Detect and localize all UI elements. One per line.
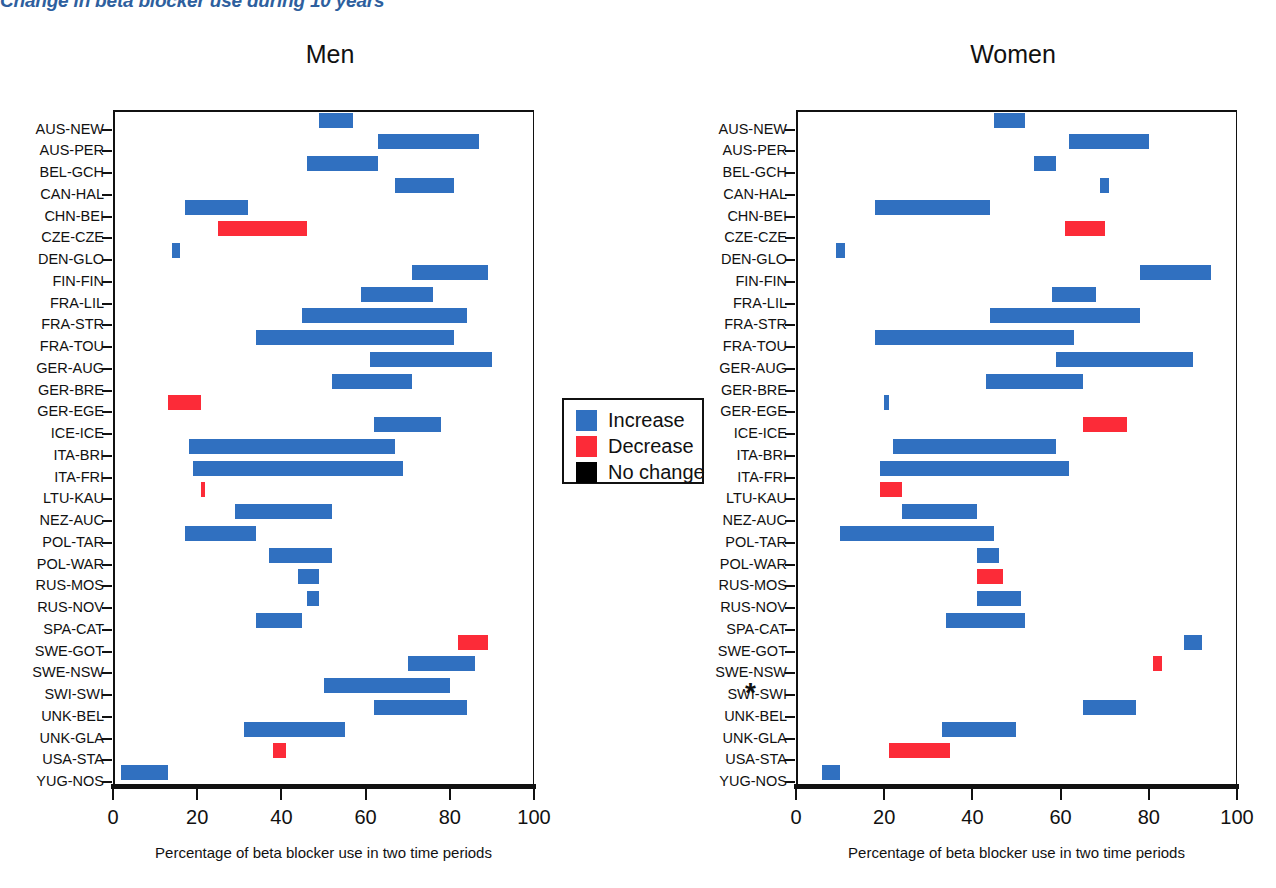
x-tick-label: 0	[766, 806, 826, 829]
y-axis-label-aus-per: AUS-PER	[4, 143, 104, 157]
bar-women-unk-gla	[942, 722, 1017, 737]
bar-men-ger-ege	[168, 395, 202, 410]
bar-men-ger-bre	[332, 374, 412, 389]
y-axis-label-fra-lil: FRA-LIL	[4, 296, 104, 310]
bar-women-pol-war	[977, 548, 999, 563]
x-tick-label: 40	[942, 806, 1002, 829]
legend-swatch-increase	[576, 410, 597, 431]
bar-women-fra-lil	[1052, 287, 1096, 302]
bar-women-unk-bel	[1083, 700, 1136, 715]
legend-label: Decrease	[608, 435, 694, 458]
bar-men-spa-cat	[256, 613, 302, 628]
bar-men-ger-aug	[370, 352, 492, 367]
legend-item-increase: Increase	[576, 409, 685, 432]
x-tick	[449, 789, 451, 800]
x-tick-label: 80	[420, 806, 480, 829]
y-axis-label-den-glo: DEN-GLO	[4, 252, 104, 266]
legend: IncreaseDecreaseNo change	[562, 398, 704, 484]
y-axis-label-nez-auc: NEZ-AUC	[687, 513, 787, 527]
bar-women-spa-cat	[946, 613, 1025, 628]
no-change-asterisk-marker: *	[745, 683, 756, 703]
y-axis-label-chn-bei: CHN-BEI	[4, 209, 104, 223]
y-axis-label-swi-swi: SWI-SWI	[687, 687, 787, 701]
y-axis-label-swe-nsw: SWE-NSW	[4, 665, 104, 679]
bar-women-ltu-kau	[880, 482, 902, 497]
y-axis-label-fra-str: FRA-STR	[4, 317, 104, 331]
y-axis-label-pol-war: POL-WAR	[4, 557, 104, 571]
bar-men-rus-mos	[298, 569, 319, 584]
bar-men-swe-nsw	[408, 656, 475, 671]
bar-women-ice-ice	[1083, 417, 1127, 432]
bar-women-ger-ege	[884, 395, 888, 410]
bar-women-fra-str	[990, 308, 1140, 323]
x-tick-label: 80	[1119, 806, 1179, 829]
y-axis-label-unk-bel: UNK-BEL	[687, 709, 787, 723]
bar-women-chn-bei	[875, 200, 990, 215]
bar-men-usa-sta	[273, 743, 286, 758]
y-axis-label-swi-swi: SWI-SWI	[4, 687, 104, 701]
y-axis-label-rus-nov: RUS-NOV	[687, 600, 787, 614]
x-tick	[971, 789, 973, 800]
bar-men-bel-gch	[307, 156, 379, 171]
bar-men-ita-fri	[193, 461, 404, 476]
y-axis-label-rus-mos: RUS-MOS	[687, 578, 787, 592]
y-axis-label-chn-bei: CHN-BEI	[687, 209, 787, 223]
y-axis-label-ger-aug: GER-AUG	[687, 361, 787, 375]
y-axis-label-rus-nov: RUS-NOV	[4, 600, 104, 614]
y-axis-label-spa-cat: SPA-CAT	[687, 622, 787, 636]
bar-women-usa-sta	[889, 743, 951, 758]
x-tick	[1236, 789, 1238, 800]
y-axis-label-ger-bre: GER-BRE	[4, 383, 104, 397]
x-axis-line-women	[794, 784, 1239, 789]
y-axis-label-can-hal: CAN-HAL	[687, 187, 787, 201]
bar-women-pol-tar	[840, 526, 994, 541]
y-axis-label-aus-new: AUS-NEW	[4, 122, 104, 136]
x-tick-label: 0	[83, 806, 143, 829]
bar-women-nez-auc	[902, 504, 977, 519]
y-axis-label-unk-bel: UNK-BEL	[4, 709, 104, 723]
x-axis-title-men: Percentage of beta blocker use in two ti…	[74, 844, 574, 861]
y-axis-label-unk-gla: UNK-GLA	[4, 731, 104, 745]
bar-men-den-glo	[172, 243, 180, 258]
bar-men-swe-got	[458, 635, 487, 650]
y-axis-label-ita-bri: ITA-BRI	[4, 448, 104, 462]
x-tick	[280, 789, 282, 800]
y-axis-label-ger-aug: GER-AUG	[4, 361, 104, 375]
bar-women-cze-cze	[1065, 221, 1105, 236]
y-axis-label-swe-nsw: SWE-NSW	[687, 665, 787, 679]
bar-women-rus-nov	[977, 591, 1021, 606]
y-axis-label-ita-fri: ITA-FRI	[4, 470, 104, 484]
bar-men-aus-per	[378, 134, 479, 149]
y-axis-label-fin-fin: FIN-FIN	[4, 274, 104, 288]
x-tick-label: 100	[1207, 806, 1267, 829]
bar-women-aus-per	[1069, 134, 1148, 149]
y-axis-label-cze-cze: CZE-CZE	[687, 230, 787, 244]
panel-title-men: Men	[180, 40, 480, 69]
bar-women-fra-tou	[875, 330, 1073, 345]
bar-men-swi-swi	[324, 678, 450, 693]
x-axis-line-men	[111, 784, 536, 789]
bar-men-chn-bei	[185, 200, 248, 215]
bar-men-unk-bel	[374, 700, 467, 715]
y-axis-label-usa-sta: USA-STA	[687, 752, 787, 766]
bar-women-can-hal	[1100, 178, 1109, 193]
bar-women-yug-nos	[822, 765, 840, 780]
bar-men-ita-bri	[189, 439, 395, 454]
y-axis-label-yug-nos: YUG-NOS	[687, 774, 787, 788]
bar-women-swe-nsw	[1153, 656, 1162, 671]
x-tick	[1060, 789, 1062, 800]
y-axis-label-cze-cze: CZE-CZE	[4, 230, 104, 244]
bar-men-pol-tar	[185, 526, 257, 541]
y-axis-label-bel-gch: BEL-GCH	[4, 165, 104, 179]
y-axis-label-can-hal: CAN-HAL	[4, 187, 104, 201]
legend-label: No change	[608, 461, 705, 484]
panel-title-women: Women	[863, 40, 1163, 69]
legend-label: Increase	[608, 409, 685, 432]
bar-women-ger-aug	[1056, 352, 1193, 367]
y-axis-label-aus-per: AUS-PER	[687, 143, 787, 157]
bar-men-pol-war	[269, 548, 332, 563]
x-tick	[365, 789, 367, 800]
y-axis-label-pol-tar: POL-TAR	[687, 535, 787, 549]
legend-item-no-change: No change	[576, 461, 705, 484]
legend-item-decrease: Decrease	[576, 435, 694, 458]
